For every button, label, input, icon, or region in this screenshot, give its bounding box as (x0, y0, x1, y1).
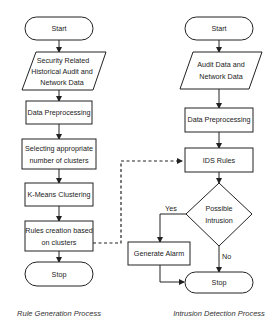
data-preprocessing-left: Data Preprocessing (26, 101, 92, 124)
node-label: IDS Rules (203, 156, 236, 165)
node-label: Start (51, 24, 66, 33)
start-terminal-left: Start (25, 17, 93, 40)
generate-alarm-process: Generate Alarm (128, 242, 190, 265)
node-label: Network Data (40, 78, 84, 87)
security-historical-data-input: Security Related Historical Audit and Ne… (22, 52, 106, 90)
node-label: Stop (212, 278, 227, 287)
flowchart-diagram: Start Security Related Historical Audit … (0, 0, 275, 330)
node-label: Security Related (37, 56, 90, 65)
possible-intrusion-decision: Possible Intrusion (186, 183, 252, 246)
node-label: K-Means Clustering (27, 190, 90, 199)
no-label: No (222, 252, 231, 261)
node-label: number of clusters (29, 156, 89, 165)
select-clusters-process: Selecting appropriate number of clusters (22, 139, 96, 169)
caption-intrusion-detection: Intrusion Detection Process (173, 309, 265, 318)
stop-terminal-left: Stop (25, 262, 93, 286)
ids-rules-process: IDS Rules (185, 148, 253, 172)
yes-label: Yes (165, 204, 177, 213)
node-label: Historical Audit and (31, 67, 93, 76)
intrusion-detection-process: Yes No Start Audit Data and Network Data… (128, 17, 265, 318)
node-label: Generate Alarm (134, 249, 184, 258)
audit-network-data-input: Audit Data and Network Data (180, 52, 262, 89)
node-label: Audit Data and (197, 60, 245, 69)
rule-generation-process: Start Security Related Historical Audit … (17, 17, 106, 318)
stop-terminal-right: Stop (185, 272, 253, 293)
rules-creation-process: Rules creation based on clusters (25, 221, 93, 251)
node-label: Data Preprocessing (187, 115, 250, 124)
node-label: Start (211, 24, 226, 33)
caption-rule-generation: Rule Generation Process (17, 309, 101, 318)
node-label: Data Preprocessing (27, 108, 90, 117)
node-label: Possible (205, 204, 232, 213)
node-label: Selecting appropriate (25, 144, 93, 153)
node-label: Network Data (199, 72, 243, 81)
start-terminal-right: Start (185, 17, 253, 40)
data-preprocessing-right: Data Preprocessing (185, 108, 253, 132)
k-means-clustering-process: K-Means Clustering (25, 183, 93, 206)
node-label: Stop (52, 270, 67, 279)
node-label: Intrusion (205, 216, 233, 225)
node-label: on clusters (42, 238, 77, 247)
node-label: Rules creation based (25, 226, 93, 235)
dashed-link-rules-to-ids (93, 161, 182, 243)
edge-yes (160, 214, 186, 242)
edge-alarm-stop (160, 265, 184, 282)
